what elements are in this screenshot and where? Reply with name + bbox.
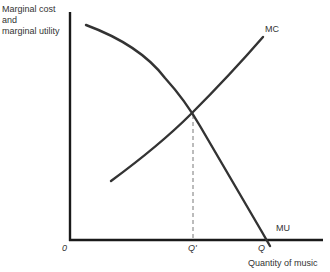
mc-label: MC (265, 24, 279, 34)
q-label: Q (258, 243, 265, 253)
origin-label: 0 (62, 243, 67, 253)
diagram: MC MU 0 Q' Q Quantity of music (0, 0, 330, 272)
mu-label: MU (276, 223, 290, 233)
x-axis-label: Quantity of music (248, 258, 318, 268)
mc-curve (111, 37, 263, 181)
mu-curve (86, 25, 270, 246)
q-prime-label: Q' (188, 243, 197, 253)
